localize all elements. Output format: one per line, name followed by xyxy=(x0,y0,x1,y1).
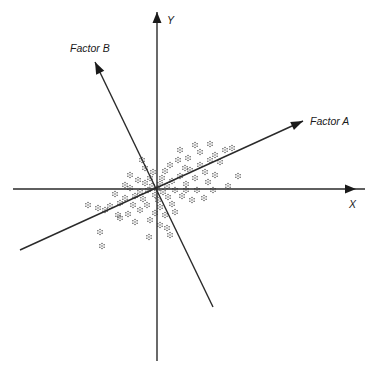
data-point xyxy=(179,193,185,199)
data-point xyxy=(140,196,146,202)
data-point xyxy=(160,189,166,195)
data-point xyxy=(207,141,213,147)
data-point xyxy=(112,191,118,197)
factor-a-label: Factor A xyxy=(310,116,349,127)
data-point xyxy=(125,211,131,217)
data-point xyxy=(167,232,173,238)
data-point xyxy=(122,195,128,201)
data-point xyxy=(97,229,103,235)
data-point xyxy=(172,187,178,193)
data-point xyxy=(132,219,138,225)
data-point xyxy=(127,185,133,191)
data-point xyxy=(212,172,218,178)
data-point xyxy=(212,152,218,158)
data-point xyxy=(210,187,216,193)
data-point xyxy=(157,222,163,228)
y-axis-arrowhead-icon xyxy=(153,12,162,23)
data-point xyxy=(197,149,203,155)
data-point xyxy=(165,194,171,200)
data-point xyxy=(189,197,195,203)
data-point xyxy=(142,180,148,186)
data-point xyxy=(183,181,189,187)
data-point xyxy=(194,187,200,193)
data-point xyxy=(202,169,208,175)
data-point xyxy=(192,175,198,181)
data-point xyxy=(185,155,191,161)
data-point xyxy=(167,162,173,168)
data-point xyxy=(146,234,152,240)
factor-diagram: Y X Factor A Factor B xyxy=(0,0,378,382)
data-point xyxy=(172,209,178,215)
data-point xyxy=(147,217,153,223)
data-point xyxy=(169,201,175,207)
data-point xyxy=(229,145,235,151)
factor-a-vector xyxy=(20,121,303,250)
data-point xyxy=(182,165,188,171)
data-point xyxy=(162,168,168,174)
data-point xyxy=(144,202,150,208)
scatter-points xyxy=(85,141,241,249)
data-point xyxy=(183,187,189,193)
diagram-canvas xyxy=(0,0,378,382)
y-axis-label: Y xyxy=(167,15,174,26)
data-point xyxy=(222,147,228,153)
data-point xyxy=(135,177,141,183)
data-point xyxy=(225,183,231,189)
data-point xyxy=(201,195,207,201)
data-point xyxy=(164,225,170,231)
x-axis-arrowhead-icon xyxy=(345,185,356,194)
data-point xyxy=(157,204,163,210)
x-axis-label: X xyxy=(349,199,356,210)
factor-b-arrowhead-icon xyxy=(95,62,104,75)
data-point xyxy=(192,142,198,148)
data-point xyxy=(130,202,136,208)
data-point xyxy=(159,175,165,181)
factor-b-vector xyxy=(95,62,213,307)
data-point xyxy=(150,169,156,175)
data-point xyxy=(127,172,133,178)
data-point xyxy=(137,207,143,213)
data-point xyxy=(95,205,101,211)
factor-b-label: Factor B xyxy=(70,43,110,54)
data-point xyxy=(99,243,105,249)
data-point xyxy=(122,182,128,188)
data-point xyxy=(205,179,211,185)
factor-a-arrowhead-icon xyxy=(290,121,303,130)
data-point xyxy=(177,147,183,153)
data-point xyxy=(85,202,91,208)
data-point xyxy=(235,173,241,179)
data-point xyxy=(175,157,181,163)
